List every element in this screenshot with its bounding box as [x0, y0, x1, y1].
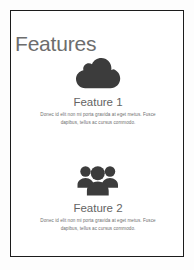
feature-block: Feature 1 Donec id elit non mi porta gra… [11, 57, 184, 126]
page-title: Features [15, 31, 96, 57]
feature-body-text: Donec id elit non mi porta gravida at eg… [37, 111, 159, 126]
cloud-icon [11, 57, 184, 91]
feature-block: Feature 2 Donec id elit non mi porta gra… [11, 163, 184, 232]
feature-body-text: Donec id elit non mi porta gravida at eg… [37, 217, 159, 232]
feature-heading: Feature 1 [11, 95, 184, 109]
feature-heading: Feature 2 [11, 201, 184, 215]
page-wrapper: Features Feature 1 Donec id elit non mi … [0, 0, 194, 270]
content-card: Features Feature 1 Donec id elit non mi … [10, 10, 184, 257]
users-icon [11, 163, 184, 197]
